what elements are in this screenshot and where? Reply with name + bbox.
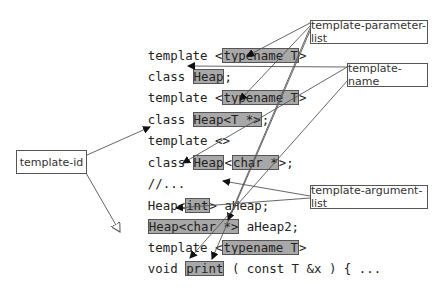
label-template-parameter-list: template-parameter-list <box>310 20 428 44</box>
code-line-7: //... <box>118 157 185 175</box>
template-argument-highlight: char * <box>232 155 279 170</box>
label-text: template-name <box>348 62 427 88</box>
label-template-name: template-name <box>347 63 428 87</box>
label-text: template-id <box>20 156 84 169</box>
label-template-argument-list: template-argument-list <box>310 185 428 209</box>
label-template-id: template-id <box>16 150 87 174</box>
code-line-1: template <typename T> <box>118 29 307 47</box>
template-name-highlight: Heap <box>193 155 225 170</box>
code-text: ; <box>262 112 269 127</box>
label-text: template-argument-list <box>311 184 427 210</box>
template-name-highlight: print <box>185 261 224 276</box>
code-line-6: class Heap<char *>; <box>118 136 294 154</box>
template-syntax-diagram: template <typename T> class Heap; templa… <box>0 0 442 302</box>
code-line-3: template <typename T> <box>118 71 307 89</box>
code-line-9: Heap<char *> aHeap2; <box>118 200 299 218</box>
code-line-2: class Heap; <box>118 50 232 68</box>
code-line-11: void print ( const T &x ) { ... <box>118 242 381 260</box>
code-text: > <box>299 48 306 63</box>
code-text: < <box>224 155 231 170</box>
code-line-10: template <typename T> <box>118 221 307 239</box>
code-text: >; <box>279 155 294 170</box>
template-parameter-highlight: typename T <box>222 48 299 63</box>
code-line-4: class Heap<T *>; <box>118 93 269 111</box>
code-line-5: template <> <box>118 114 230 132</box>
label-text: template-parameter-list <box>311 19 427 45</box>
code-text: ( const T &x ) { ... <box>224 261 381 276</box>
code-text: void <box>148 261 185 276</box>
code-text: > <box>299 90 306 105</box>
code-line-8: Heap<int> aHeap; <box>118 179 269 197</box>
arrow-id-2 <box>86 173 120 232</box>
